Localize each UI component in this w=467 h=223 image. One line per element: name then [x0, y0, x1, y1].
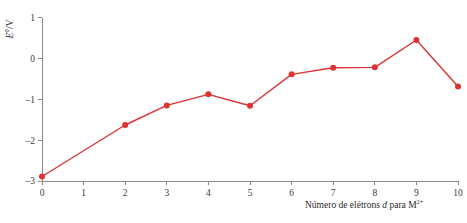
- y-tick-label: –1: [25, 95, 36, 105]
- line-chart-plot: 10–1–2–3012345678910: [0, 0, 467, 223]
- y-tick-label: –2: [25, 136, 36, 146]
- data-point-marker: [289, 71, 295, 77]
- data-point-marker: [455, 84, 461, 90]
- y-tick-label: 1: [30, 13, 35, 23]
- data-point-marker: [164, 102, 170, 108]
- data-point-marker: [372, 64, 378, 70]
- y-tick-label: 0: [30, 54, 35, 64]
- x-tick-label: 5: [248, 188, 253, 198]
- y-axis-title-text: E°/V: [5, 4, 15, 54]
- x-tick-label: 9: [414, 188, 419, 198]
- x-axis-title-middle: para M: [387, 200, 417, 210]
- x-axis-title: Número de elétrons d para M2+: [305, 200, 465, 210]
- y-tick-label: –3: [25, 176, 36, 186]
- x-tick-label: 6: [289, 188, 294, 198]
- tick-marks-group: [38, 18, 458, 186]
- x-tick-label: 10: [453, 188, 463, 198]
- y-axis-title: E°/V: [1, 8, 19, 56]
- x-axis-title-prefix: Número de elétrons: [305, 200, 382, 210]
- y-axis-title-units: °/V: [5, 19, 15, 32]
- data-point-marker: [247, 103, 253, 109]
- data-markers-group: [39, 37, 461, 180]
- x-axis-title-superscript: 2+: [417, 198, 424, 205]
- x-tick-label: 0: [40, 188, 45, 198]
- y-axis-title-symbol: E: [5, 33, 15, 39]
- x-tick-label: 7: [331, 188, 336, 198]
- x-tick-label: 1: [81, 188, 86, 198]
- tick-labels-group: 10–1–2–3012345678910: [25, 13, 464, 198]
- data-point-marker: [413, 37, 419, 43]
- chart-container: 10–1–2–3012345678910 E°/V Número de elét…: [0, 0, 467, 223]
- data-point-marker: [330, 65, 336, 71]
- data-point-marker: [122, 122, 128, 128]
- data-point-marker: [39, 174, 45, 180]
- axes-group: [42, 18, 458, 182]
- data-point-marker: [205, 91, 211, 97]
- x-tick-label: 2: [123, 188, 128, 198]
- x-tick-label: 4: [206, 188, 211, 198]
- x-tick-label: 8: [372, 188, 377, 198]
- x-tick-label: 3: [164, 188, 169, 198]
